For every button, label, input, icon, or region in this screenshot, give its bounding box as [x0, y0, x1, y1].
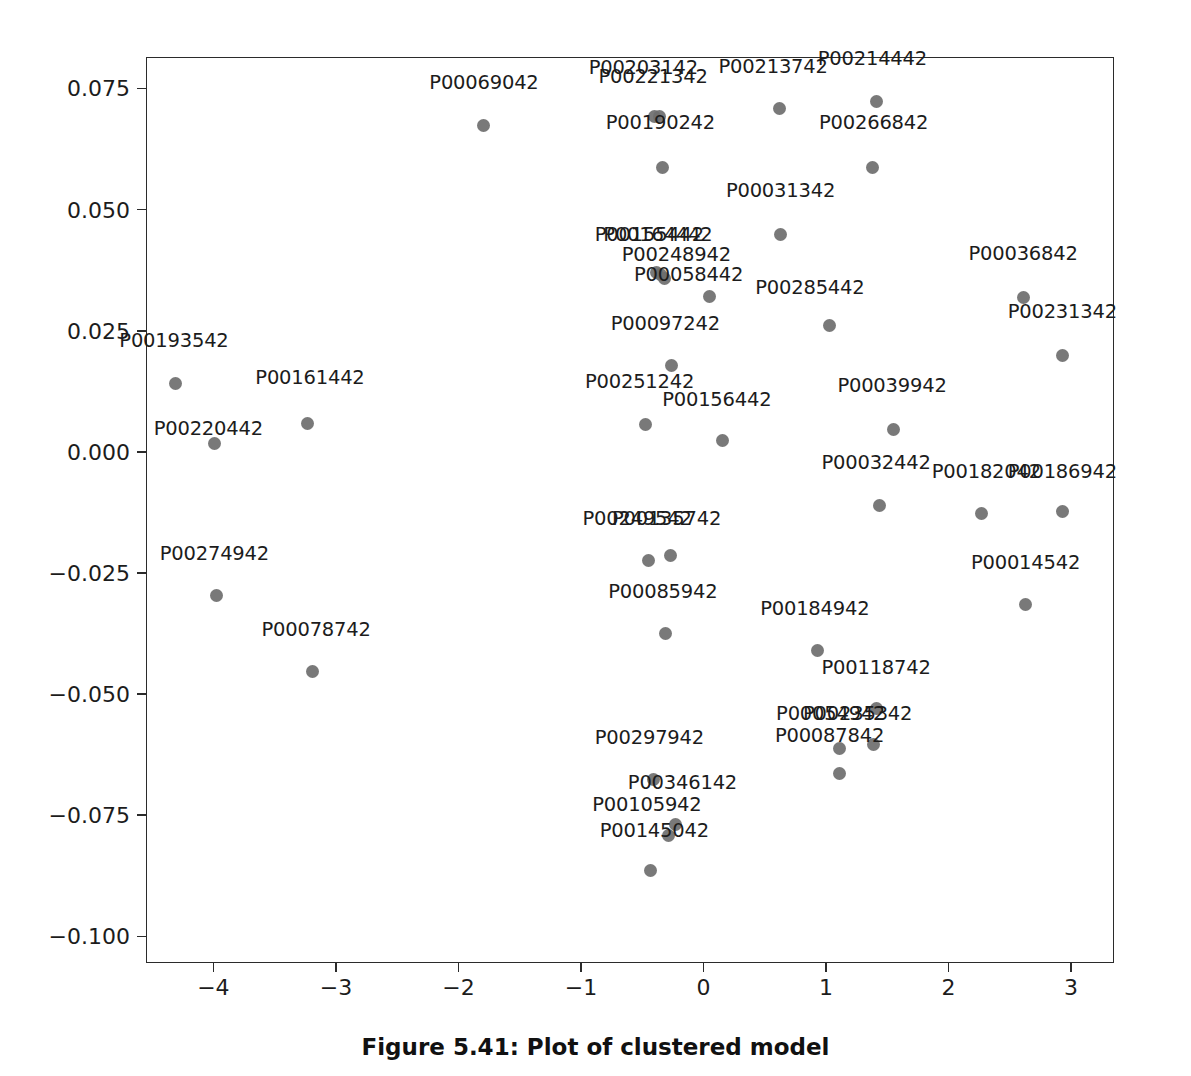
data-point: [1019, 598, 1032, 611]
scatter-plot-area: P00069042P00203142P00221342P00213742P002…: [146, 57, 1114, 963]
data-point: [169, 377, 182, 390]
point-label: P00145042: [600, 821, 709, 841]
data-point: [975, 507, 988, 520]
y-axis-tick-label: 0.000: [67, 439, 130, 464]
data-point: [870, 95, 883, 108]
data-point: [639, 418, 652, 431]
point-label: P00085942: [608, 581, 717, 601]
y-axis-tick: [137, 572, 146, 574]
point-label: P00032442: [821, 453, 930, 473]
point-label: P00156442: [662, 390, 771, 410]
y-axis-tick-label: −0.050: [49, 682, 130, 707]
data-point: [1056, 349, 1069, 362]
x-axis-tick-label: −2: [442, 975, 474, 1000]
data-point: [301, 417, 314, 430]
point-label: P00213742: [719, 56, 828, 76]
figure-caption: Figure 5.41: Plot of clustered model: [0, 1034, 1191, 1060]
point-label: P00297942: [595, 728, 704, 748]
x-axis-tick-label: 0: [697, 975, 711, 1000]
point-label: P00190242: [606, 112, 715, 132]
x-axis-tick-label: −3: [320, 975, 352, 1000]
y-axis-tick: [137, 330, 146, 332]
x-axis-tick: [580, 963, 582, 972]
point-label: P00118742: [821, 657, 930, 677]
point-label: P00231342: [1008, 302, 1117, 322]
data-point: [659, 627, 672, 640]
point-label: P00014542: [971, 552, 1080, 572]
point-label: P00078742: [261, 620, 370, 640]
point-label: P00069042: [429, 72, 538, 92]
point-label: P00346142: [628, 773, 737, 793]
x-axis-tick-label: 3: [1064, 975, 1078, 1000]
point-label: P00135742: [612, 508, 721, 528]
x-axis-tick: [825, 963, 827, 972]
y-axis-tick-label: 0.050: [67, 197, 130, 222]
data-point: [823, 319, 836, 332]
point-label: P00220442: [154, 419, 263, 439]
data-point: [833, 767, 846, 780]
x-axis-tick: [335, 963, 337, 972]
data-point: [703, 290, 716, 303]
data-point: [716, 434, 729, 447]
point-label: P00097242: [611, 313, 720, 333]
x-axis-tick: [458, 963, 460, 972]
data-point: [477, 119, 490, 132]
y-axis-tick: [137, 451, 146, 453]
y-axis-tick-label: −0.075: [49, 803, 130, 828]
point-label: P00039942: [837, 375, 946, 395]
x-axis-tick: [703, 963, 705, 972]
y-axis-tick-label: −0.025: [49, 560, 130, 585]
y-axis-tick: [137, 88, 146, 90]
point-label: P00031342: [726, 180, 835, 200]
point-label: P00248942: [622, 244, 731, 264]
data-point: [644, 864, 657, 877]
point-label: P00184942: [760, 598, 869, 618]
x-axis-tick: [213, 963, 215, 972]
point-label: P00285442: [755, 277, 864, 297]
data-point: [656, 161, 669, 174]
data-point: [306, 665, 319, 678]
point-label: P00274942: [160, 544, 269, 564]
y-axis-tick: [137, 209, 146, 211]
x-axis-tick-label: −4: [197, 975, 229, 1000]
point-label: P00105942: [592, 794, 701, 814]
data-point: [873, 499, 886, 512]
point-label: P00161442: [255, 368, 364, 388]
data-point: [664, 549, 677, 562]
data-point: [642, 554, 655, 567]
data-point: [210, 589, 223, 602]
data-point: [1056, 505, 1069, 518]
data-point: [774, 228, 787, 241]
y-axis-tick-label: 0.025: [67, 318, 130, 343]
x-axis-tick: [1070, 963, 1072, 972]
plot-canvas: P00069042P00203142P00221342P00213742P002…: [147, 58, 1113, 962]
point-label: P00186942: [1008, 461, 1117, 481]
data-point: [887, 423, 900, 436]
figure-root: P00069042P00203142P00221342P00213742P002…: [0, 0, 1191, 1076]
point-label: P00087842: [775, 725, 884, 745]
point-label: P00214442: [818, 48, 927, 68]
point-label: P00221342: [598, 66, 707, 86]
x-axis-tick: [948, 963, 950, 972]
x-axis-tick-label: 2: [942, 975, 956, 1000]
y-axis-tick: [137, 814, 146, 816]
y-axis-tick: [137, 693, 146, 695]
y-axis-tick-label: 0.075: [67, 76, 130, 101]
point-label: P00036842: [968, 243, 1077, 263]
point-label: P00193542: [119, 331, 228, 351]
y-axis-tick-label: −0.100: [49, 924, 130, 949]
data-point: [773, 102, 786, 115]
point-label: P00164442: [603, 224, 712, 244]
x-axis-tick-label: −1: [565, 975, 597, 1000]
x-axis-tick-label: 1: [819, 975, 833, 1000]
point-label: P00058442: [634, 265, 743, 285]
point-label: P00235342: [803, 704, 912, 724]
y-axis-tick: [137, 936, 146, 938]
data-point: [866, 161, 879, 174]
point-label: P00266842: [819, 112, 928, 132]
